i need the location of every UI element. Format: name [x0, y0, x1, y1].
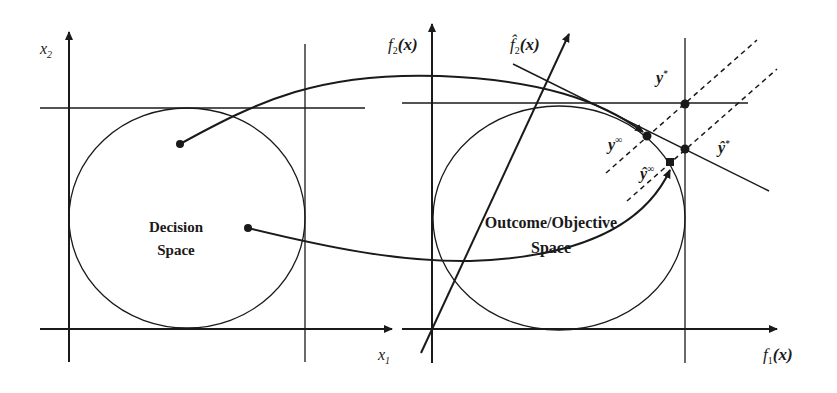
- ideal-hat-point: [681, 145, 690, 154]
- decision-space-title-2: Space: [157, 242, 195, 258]
- f1-axis-label: f1(x): [763, 345, 793, 366]
- utopia-point-label: y∞: [606, 134, 622, 154]
- rotated-f2-axis: [421, 34, 569, 353]
- utopia-hat-point-label: ŷ∞: [638, 163, 654, 183]
- outcome-space-title-2: Space: [531, 239, 571, 257]
- decision-space-title-1: Decision: [149, 219, 204, 235]
- x1-axis-label: x1: [377, 346, 390, 366]
- ideal-hat-point-label: ŷ*: [716, 138, 730, 157]
- utopia-hat-point: [666, 158, 674, 166]
- x2-axis-label: x2: [39, 40, 52, 60]
- mapping-arrow-upper: [180, 76, 643, 144]
- outcome-space-title-1: Outcome/Objective: [485, 214, 617, 232]
- decision-outcome-diagram: Decision Space x2 x1 Outcome/Objective S…: [0, 0, 837, 393]
- objective-space-panel: [402, 24, 777, 363]
- ideal-point-label: y*: [654, 68, 668, 87]
- ideal-point: [681, 100, 690, 109]
- f2-axis-label: f2(x): [388, 35, 418, 56]
- rotated-f2-axis-label: f̂2(x): [510, 34, 540, 56]
- utopia-point: [643, 132, 652, 141]
